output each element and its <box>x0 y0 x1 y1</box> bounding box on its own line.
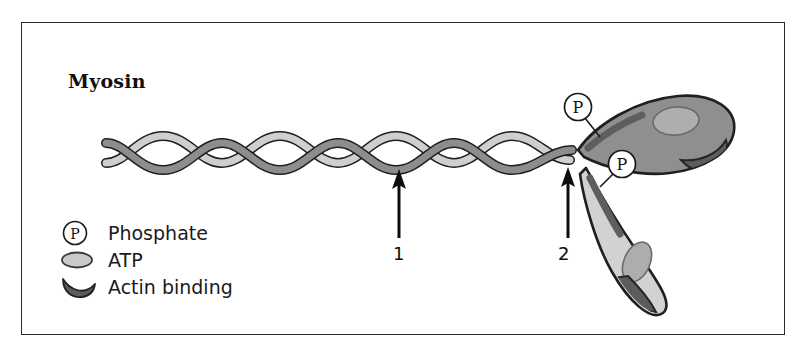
coiled-coil-tail <box>106 136 572 170</box>
legend-item-phosphate: P Phosphate <box>60 219 233 246</box>
svg-text:P: P <box>70 225 79 241</box>
callout-phosphate-lower-label: P <box>617 155 628 174</box>
legend-item-actin-binding-label: Actin binding <box>108 276 233 298</box>
myosin-head-upper <box>578 96 734 174</box>
myosin-head-lower <box>580 168 667 315</box>
arrow-1-label: 1 <box>393 243 404 264</box>
page-title: Myosin <box>68 70 146 92</box>
actin-crescent-icon <box>60 274 106 300</box>
legend-item-actin-binding: Actin binding <box>60 273 233 300</box>
legend-item-phosphate-label: Phosphate <box>108 222 208 244</box>
callout-phosphate-upper-label: P <box>573 98 584 117</box>
callout-phosphate-upper[interactable]: P <box>565 94 601 138</box>
arrow-2-label: 2 <box>558 243 569 264</box>
myosin-diagram: P P <box>0 0 809 358</box>
figure-root: P P Myosin 1 2 P <box>0 0 809 358</box>
atp-ellipse-icon <box>60 247 106 273</box>
circled-p-icon: P <box>60 220 106 246</box>
callout-leader-lower <box>600 174 613 187</box>
legend-item-atp-label: ATP <box>108 249 143 271</box>
arrow-2 <box>561 167 575 238</box>
arrow-1 <box>392 169 406 238</box>
legend: P Phosphate ATP Actin binding <box>60 219 233 300</box>
legend-item-atp: ATP <box>60 246 233 273</box>
